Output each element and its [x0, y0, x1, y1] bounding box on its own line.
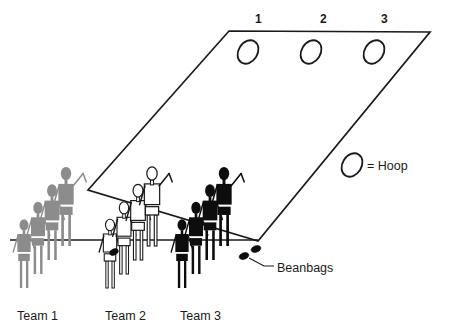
- figure-leg-2: [212, 230, 215, 260]
- figure-neck: [223, 180, 226, 185]
- figure-leg-2: [154, 215, 157, 246]
- figure-head: [219, 167, 229, 180]
- beanbag-2: [238, 251, 250, 260]
- figure-torso: [17, 234, 30, 252]
- legend-hoop-icon: [337, 149, 366, 180]
- figure-leg-1: [20, 261, 22, 288]
- figure-leg-2: [40, 246, 42, 274]
- figure-hips: [190, 238, 202, 246]
- figure-hips: [217, 207, 230, 215]
- figure-hips: [132, 222, 145, 230]
- figure-torso: [45, 201, 60, 221]
- hoop-2: [296, 36, 325, 67]
- figure-head: [178, 219, 187, 231]
- figure-leg-2: [68, 215, 71, 246]
- figure-torso: [117, 217, 131, 236]
- figure-forearm-raised: [83, 174, 86, 182]
- figure-leg-2: [54, 230, 57, 260]
- figure-torso: [216, 184, 231, 205]
- figure-hips: [59, 207, 72, 215]
- figure-torso: [175, 234, 188, 252]
- figure-neck: [195, 214, 198, 219]
- figure-torso: [189, 217, 203, 236]
- figure-leg-2: [26, 261, 28, 288]
- figure-leg-1: [133, 230, 136, 260]
- team-3-label: Team 3: [180, 310, 221, 323]
- beanbags-leader-line: [249, 258, 274, 266]
- figure-neck: [51, 197, 54, 202]
- figure-hips: [176, 254, 188, 261]
- diagram-canvas: 1 2 3 = Hoop Beanbags Team 1 Team 2 Team…: [0, 0, 451, 336]
- figure-arm-raised: [231, 174, 241, 186]
- figure-arm-raised: [159, 174, 169, 186]
- figure-torso: [203, 201, 218, 221]
- figure-leg-2: [226, 215, 229, 246]
- figure-leg-1: [120, 246, 122, 274]
- figure-leg-1: [147, 215, 150, 246]
- figure-hips: [46, 222, 59, 230]
- figure-forearm-raised: [241, 174, 244, 182]
- figure-head: [106, 219, 115, 231]
- figure-head: [191, 202, 200, 214]
- hoops-group: [233, 36, 388, 67]
- legend-hoop-ellipse: [337, 149, 366, 180]
- figure-torso: [58, 184, 73, 205]
- team-2-label: Team 2: [105, 310, 146, 323]
- teams-group: [13, 167, 244, 288]
- figure-arm-raised: [73, 174, 83, 186]
- figure-hips: [204, 222, 217, 230]
- team-1-figures: [13, 167, 86, 288]
- figure-head: [205, 184, 215, 197]
- figure-hips: [32, 238, 44, 246]
- figure-leg-1: [34, 246, 36, 274]
- figure-head: [133, 184, 143, 197]
- figure-torso: [144, 184, 159, 205]
- figure-head: [61, 167, 71, 180]
- figure-head: [119, 202, 128, 214]
- figure-arm-left: [171, 236, 176, 252]
- beanbags-label: Beanbags: [277, 262, 333, 275]
- figure-head: [147, 167, 157, 180]
- figure-arm-left: [13, 236, 18, 252]
- team-2-figures: [99, 167, 172, 288]
- figure-head: [47, 184, 57, 197]
- figure-leg-1: [219, 215, 222, 246]
- hoop-3: [359, 36, 388, 67]
- figure-leg-2: [184, 261, 186, 288]
- hoop-number-3: 3: [381, 13, 388, 25]
- figure-hips: [118, 238, 130, 246]
- figure-leg-2: [198, 246, 200, 274]
- figure-neck: [181, 230, 184, 235]
- team-1-label: Team 1: [17, 310, 58, 323]
- figure-leg-2: [126, 246, 128, 274]
- team-3-figures: [171, 167, 244, 288]
- beanbag-1: [250, 244, 262, 253]
- figure-hips: [145, 207, 158, 215]
- figure-leg-1: [192, 246, 194, 274]
- figure-neck: [209, 197, 212, 202]
- figure-leg-1: [205, 230, 208, 260]
- hoop-1: [233, 36, 262, 67]
- figure-torso: [31, 217, 45, 236]
- figure-torso: [131, 201, 146, 221]
- figure-leg-1: [178, 261, 180, 288]
- figure-leg-1: [106, 261, 108, 288]
- figure-leg-2: [112, 261, 114, 288]
- figure-neck: [23, 230, 26, 235]
- figure-forearm-raised: [169, 174, 172, 182]
- figure-neck: [37, 214, 40, 219]
- figure-leg-1: [61, 215, 64, 246]
- legend-hoop-label: = Hoop: [367, 160, 408, 173]
- figure-leg-1: [47, 230, 50, 260]
- figure-hips: [18, 254, 30, 261]
- figure-leg-2: [140, 230, 143, 260]
- figure-head: [20, 219, 29, 231]
- figure-head: [33, 202, 42, 214]
- hoop-number-1: 1: [255, 13, 262, 25]
- hoop-number-2: 2: [320, 13, 327, 25]
- figure-neck: [65, 180, 68, 185]
